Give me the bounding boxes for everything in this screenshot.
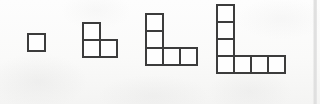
unit-square bbox=[27, 33, 46, 52]
figure-3 bbox=[145, 13, 198, 66]
pattern-figure-sequence bbox=[0, 0, 320, 104]
unit-square bbox=[99, 39, 118, 58]
right-margin-rule bbox=[313, 0, 317, 104]
figure-4 bbox=[216, 4, 286, 74]
figure-1 bbox=[27, 33, 46, 52]
unit-square bbox=[179, 47, 198, 66]
figure-2 bbox=[82, 22, 118, 58]
unit-square bbox=[267, 55, 286, 74]
